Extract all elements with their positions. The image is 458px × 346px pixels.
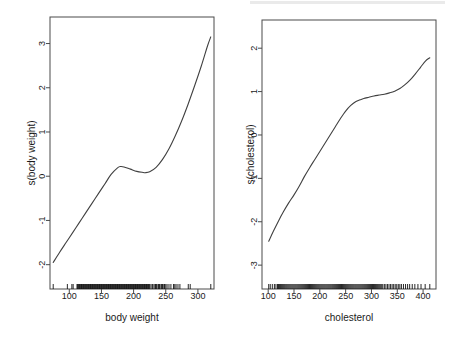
y-tick-label: 2 (249, 46, 259, 51)
x-tick-label: 200 (312, 291, 327, 301)
x-tick-label: 300 (364, 291, 379, 301)
x-tick-label: 100 (62, 291, 77, 301)
x-tick-label: 300 (190, 291, 205, 301)
y-tick-label: 3 (37, 41, 47, 46)
x-axis-label: cholesterol (325, 312, 373, 323)
y-tick-label: 1 (249, 89, 259, 94)
x-tick-label: 250 (338, 291, 353, 301)
x-axis-label: body weight (105, 312, 159, 323)
y-tick-label: -1 (37, 216, 47, 224)
gam-smooth-plots-figure: 100150200250300-2-10123body weights(body… (0, 0, 458, 346)
y-tick-label: 0 (37, 174, 47, 179)
scan-artifact-band (250, 1, 445, 4)
x-tick-label: 350 (390, 291, 405, 301)
x-tick-label: 250 (158, 291, 173, 301)
y-axis-label: s(cholesterol) (245, 124, 256, 184)
y-tick-label: -2 (37, 261, 47, 269)
x-tick-label: 100 (261, 291, 276, 301)
y-tick-label: 1 (37, 129, 47, 134)
x-tick-label: 150 (94, 291, 109, 301)
x-tick-label: 150 (286, 291, 301, 301)
x-tick-label: 200 (126, 291, 141, 301)
x-tick-label: 400 (416, 291, 431, 301)
y-tick-label: 2 (37, 85, 47, 90)
y-axis-label: s(body weight) (26, 120, 37, 185)
y-tick-label: -2 (249, 218, 259, 226)
y-tick-label: -3 (249, 261, 259, 269)
